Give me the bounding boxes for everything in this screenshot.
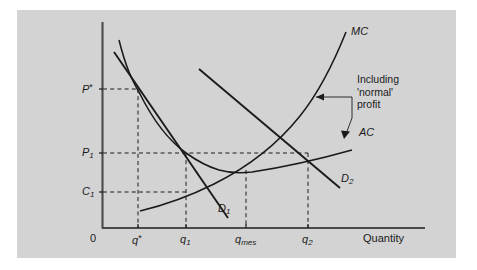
curve-label-ac: AC xyxy=(359,127,374,138)
axis-origin-label: 0 xyxy=(90,233,96,244)
annotation-leaders-group xyxy=(316,97,352,134)
y-tick-label-c1: C1 xyxy=(82,186,94,199)
leader-to-ac xyxy=(346,97,352,134)
x-tick-label-q1: q1 xyxy=(180,234,191,247)
annotation-line-2: 'normal' xyxy=(357,86,399,99)
arrowhead-mc-icon xyxy=(316,94,324,101)
diagram-page: 0 Quantity P* P1 C1 q* q1 qmes q2 MC AC … xyxy=(0,0,477,270)
y-tick-label-p1: P1 xyxy=(82,147,94,160)
curve-label-d1: D1 xyxy=(218,203,230,216)
x-tick-label-q-star: q* xyxy=(132,234,142,246)
marginal-cost-curve xyxy=(140,32,346,211)
demand-curve-1 xyxy=(114,52,228,218)
x-axis-label: Quantity xyxy=(363,233,404,244)
guide-lines-group xyxy=(103,89,308,228)
y-tick-label-p-star: P* xyxy=(82,83,93,95)
x-tick-label-q2: q2 xyxy=(302,234,313,247)
arrowhead-ac-icon xyxy=(341,131,350,140)
curve-label-d2: D2 xyxy=(341,173,353,186)
economics-diagram-svg xyxy=(0,0,477,270)
axes-group xyxy=(102,22,425,229)
normal-profit-annotation: Including 'normal' profit xyxy=(357,73,399,111)
x-tick-label-q-mes: qmes xyxy=(235,234,256,247)
curve-label-mc: MC xyxy=(351,26,368,37)
annotation-line-3: profit xyxy=(357,98,399,111)
tick-marks-group xyxy=(99,89,308,228)
annotation-line-1: Including xyxy=(357,73,399,86)
